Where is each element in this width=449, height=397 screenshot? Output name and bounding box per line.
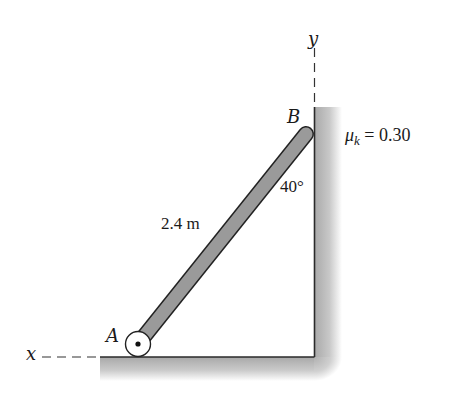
mu-symbol: μ bbox=[345, 125, 354, 145]
x-axis-label: x bbox=[26, 345, 36, 363]
bar-ab bbox=[138, 134, 306, 344]
angle-label: 40° bbox=[280, 178, 304, 195]
mu-value: = 0.30 bbox=[364, 125, 410, 145]
mu-subscript: k bbox=[354, 133, 360, 148]
y-axis-label: y bbox=[308, 30, 318, 48]
bar-length-label: 2.4 m bbox=[161, 215, 200, 232]
diagram-canvas: y x B A 2.4 m 40° μk = 0.30 bbox=[0, 0, 449, 397]
roller-a bbox=[126, 332, 151, 357]
point-b-label: B bbox=[287, 108, 300, 126]
friction-coefficient-label: μk = 0.30 bbox=[345, 126, 410, 147]
surface-outline bbox=[100, 107, 315, 357]
wall bbox=[314, 107, 342, 357]
point-a-label: A bbox=[106, 327, 119, 345]
ground bbox=[100, 357, 342, 381]
